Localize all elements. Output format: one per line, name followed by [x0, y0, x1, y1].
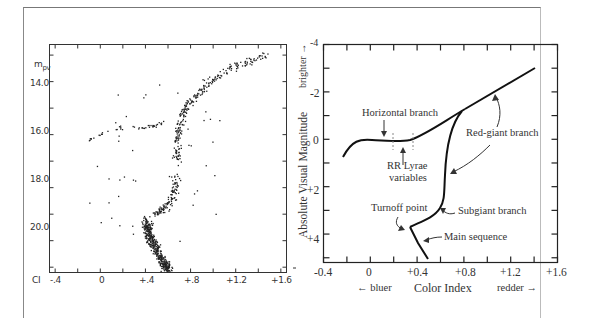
red-giant-branch-curve: [465, 68, 535, 109]
redder-hint: redder →: [497, 283, 537, 294]
bluer-hint: ← bluer: [357, 283, 392, 294]
annotation-turnoff-point: Turnoff point: [371, 203, 427, 214]
right-x-tick: +0.8: [455, 267, 476, 279]
left-arrow-icon: ←: [357, 282, 368, 293]
annotation-red-giant-branch: Red-giant branch: [466, 128, 539, 139]
right-x-tick: +1.2: [500, 267, 521, 279]
right-x-tick: +1.6: [546, 267, 567, 279]
up-arrow-icon: →: [297, 44, 308, 54]
right-y-hint: brighter →: [297, 44, 308, 88]
right-y-tick: -2: [310, 88, 320, 100]
right-x-tick: -0.4: [314, 267, 332, 279]
main-sequence-curve: [410, 227, 428, 259]
right-y-tick: -4: [310, 38, 318, 48]
right-x-tick: 0: [366, 267, 372, 279]
annotation-subgiant-branch: Subgiant branch: [458, 206, 527, 217]
right-y-axis-label: Absolute Visual Magnitude: [297, 112, 309, 238]
right-arrow-icon: →: [526, 282, 537, 293]
annotation-main-sequence: Main sequence: [444, 232, 507, 243]
right-x-tick: +0.4: [407, 267, 428, 279]
annotation-horizontal-branch: Horizontal branch: [362, 108, 438, 119]
annotation-rr-lyrae-line2: variables: [389, 173, 427, 184]
annotation-rr-lyrae-line1: RR Lyrae: [387, 161, 428, 172]
right-x-axis-label: Color Index: [414, 282, 472, 294]
right-y-tick: 0: [313, 135, 319, 147]
